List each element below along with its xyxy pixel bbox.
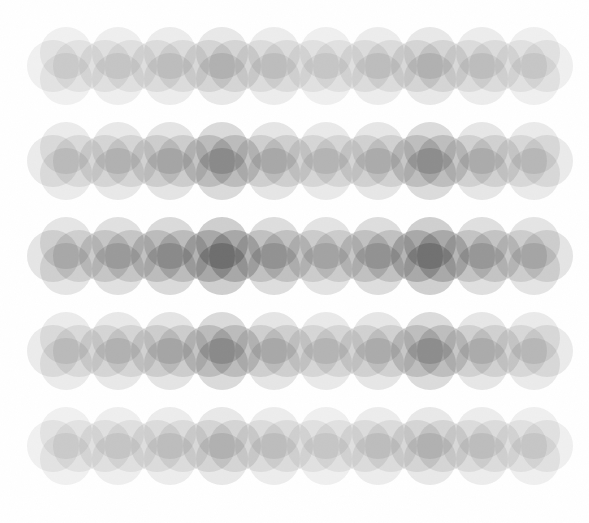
figure-canvas [0, 0, 589, 523]
cell-circle [508, 243, 560, 295]
heatmap-plot-area [0, 0, 589, 523]
cell-circle [508, 53, 560, 105]
cell-circle [508, 148, 560, 200]
cell-circle [508, 338, 560, 390]
cell-circle [508, 433, 560, 485]
